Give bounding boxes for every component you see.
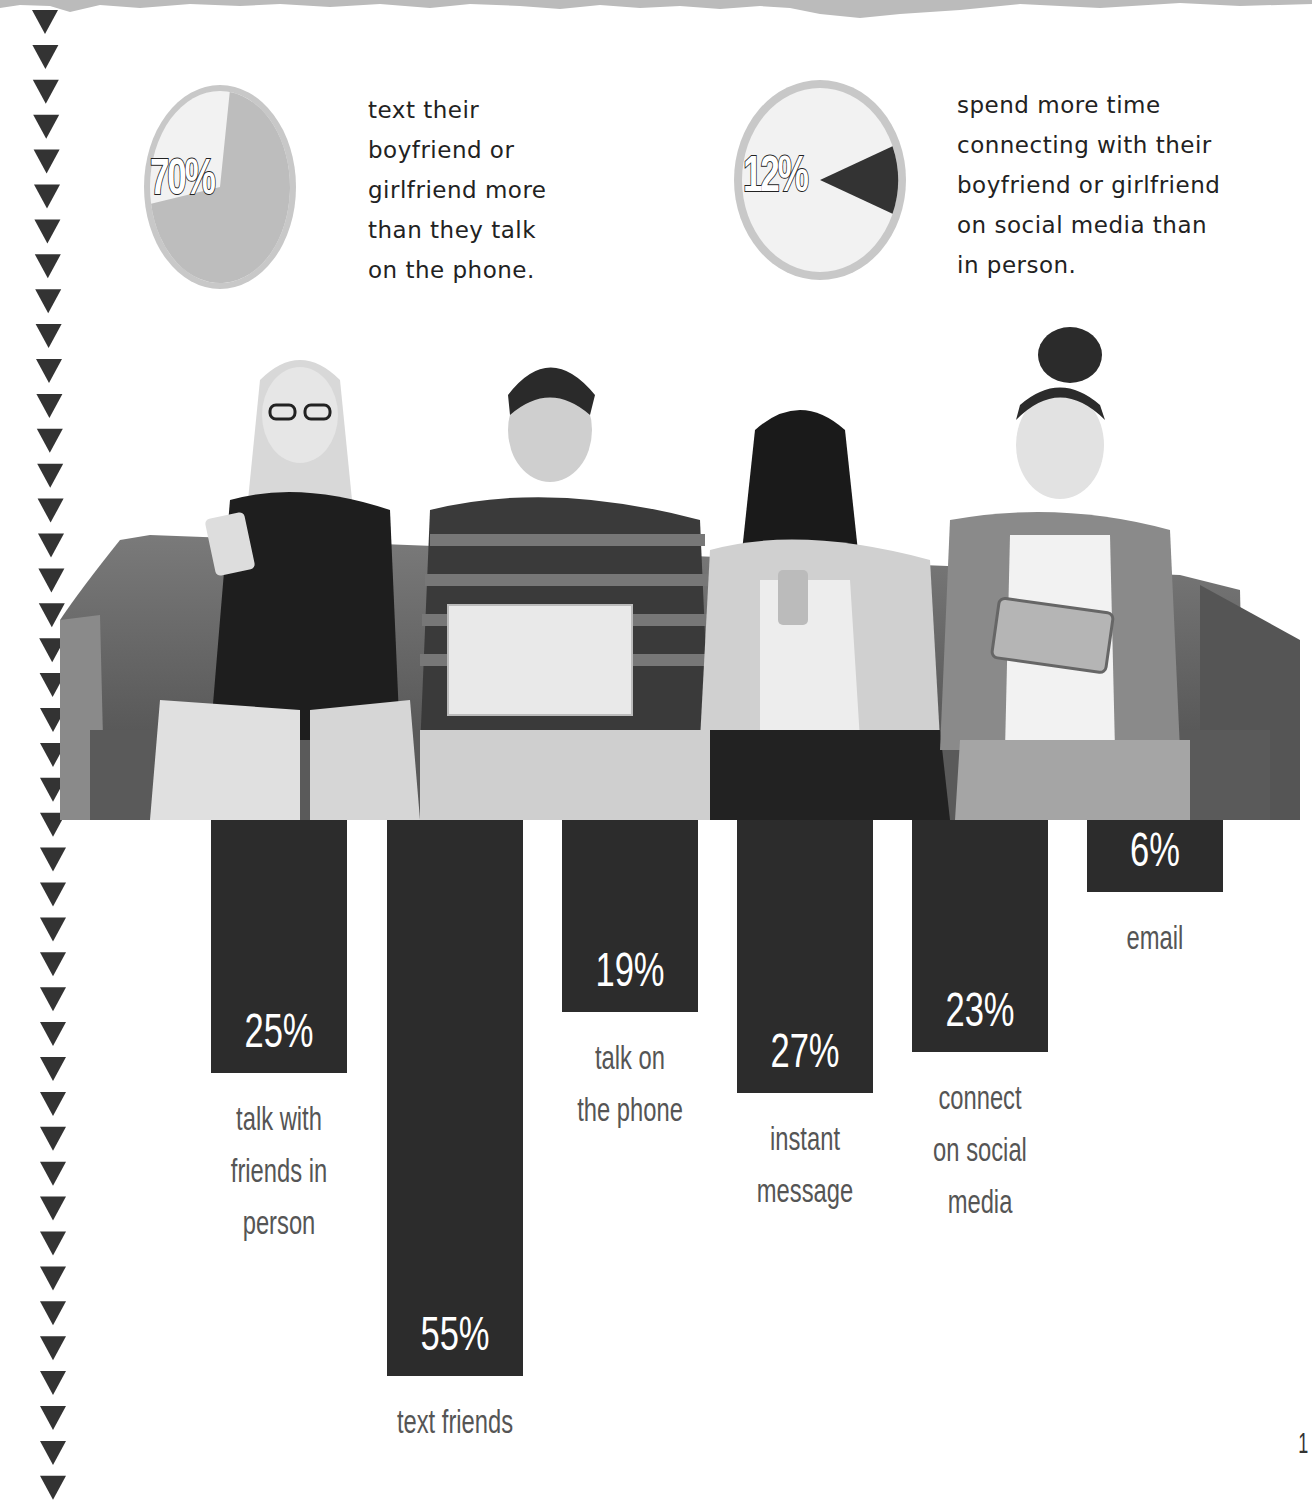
triangle-icon [40, 1441, 66, 1465]
bar-label-line: on social [908, 1124, 1052, 1176]
bar-4: 23% [912, 820, 1048, 1052]
bar-category-label: connecton socialmedia [908, 1072, 1052, 1228]
bar-label-line: media [908, 1176, 1052, 1228]
bar-3: 27% [737, 820, 873, 1093]
person-4 [940, 327, 1190, 820]
stat-70-percent: 70% text their boyfriend or girlfriend m… [140, 80, 600, 300]
triangle-icon [34, 150, 60, 174]
caption-line: in person. [957, 245, 1220, 285]
bar-value: 19% [581, 942, 679, 997]
bar-label-line: email [1083, 912, 1227, 964]
bar-label-line: connect [908, 1072, 1052, 1124]
bar-label-line: the phone [558, 1084, 702, 1136]
triangle-icon [32, 10, 58, 34]
caption-line: boyfriend or [368, 130, 547, 170]
triangle-icon [40, 1022, 66, 1046]
bar-value: 23% [931, 982, 1029, 1037]
triangle-icon [40, 1301, 66, 1325]
teens-on-sofa-photo [60, 320, 1302, 820]
triangle-icon [40, 1197, 66, 1221]
torn-paper-edge [0, 0, 1312, 22]
triangle-icon [40, 987, 66, 1011]
stat-12-percent: 12% spend more time connecting with thei… [733, 75, 1293, 295]
triangle-icon [40, 848, 66, 872]
triangle-icon [40, 1406, 66, 1430]
triangle-icon [37, 429, 63, 453]
caption-line: spend more time [957, 85, 1220, 125]
triangle-icon [40, 883, 66, 907]
triangle-icon [35, 289, 61, 313]
bar-5: 6% [1087, 820, 1223, 892]
bar-category-label: talk onthe phone [558, 1032, 702, 1136]
triangle-icon [40, 1371, 66, 1395]
caption-line: connecting with their [957, 125, 1220, 165]
triangle-icon [40, 1336, 66, 1360]
caption-line: text their [368, 90, 547, 130]
bar-label-line: person [207, 1197, 351, 1249]
triangle-icon [40, 917, 66, 941]
triangle-icon [40, 1092, 66, 1116]
triangle-icon [40, 1266, 66, 1290]
triangle-icon [34, 185, 60, 209]
caption-line: girlfriend more [368, 170, 547, 210]
stat-caption-12: spend more time connecting with their bo… [957, 85, 1220, 285]
triangle-icon [36, 324, 62, 348]
caption-line: than they talk [368, 210, 547, 250]
bar-value: 27% [756, 1023, 854, 1078]
bar-0: 25% [211, 820, 347, 1073]
bar-value: 25% [230, 1003, 328, 1058]
bar-label-line: message [733, 1165, 877, 1217]
bar-category-label: talk withfriends inperson [207, 1093, 351, 1249]
triangle-icon [40, 1127, 66, 1151]
triangle-icon [36, 394, 62, 418]
person-2 [420, 368, 710, 821]
page-number: 1 [1299, 1426, 1309, 1460]
person-3 [700, 410, 950, 820]
caption-line: on social media than [957, 205, 1220, 245]
bar-label-line: friends in [207, 1145, 351, 1197]
bar-2: 19% [562, 820, 698, 1012]
triangle-icon [35, 254, 61, 278]
triangle-icon [33, 80, 59, 104]
triangle-icon [34, 219, 60, 243]
bar-category-label: text friends [383, 1396, 527, 1448]
pie-value-70: 70% [150, 148, 214, 206]
triangle-icon [40, 1476, 66, 1500]
bar-value: 6% [1106, 822, 1204, 877]
bar-label-line: instant [733, 1113, 877, 1165]
caption-line: boyfriend or girlfriend [957, 165, 1220, 205]
triangle-icon [40, 1057, 66, 1081]
caption-line: on the phone. [368, 250, 547, 290]
bar-label-line: talk on [558, 1032, 702, 1084]
triangle-icon [36, 359, 62, 383]
bar-label-line: text friends [383, 1396, 527, 1448]
triangle-icon [32, 45, 58, 69]
bar-1: 55% [387, 820, 523, 1376]
bar-label-line: talk with [207, 1093, 351, 1145]
triangle-icon [33, 115, 59, 139]
bar-category-label: instantmessage [733, 1113, 877, 1217]
stat-caption-70: text their boyfriend or girlfriend more … [368, 90, 547, 290]
triangle-icon [40, 1232, 66, 1256]
triangle-icon [40, 1162, 66, 1186]
bar-category-label: email [1083, 912, 1227, 964]
pie-value-12: 12% [743, 145, 807, 203]
triangle-icon [40, 952, 66, 976]
bar-value: 55% [406, 1306, 504, 1361]
